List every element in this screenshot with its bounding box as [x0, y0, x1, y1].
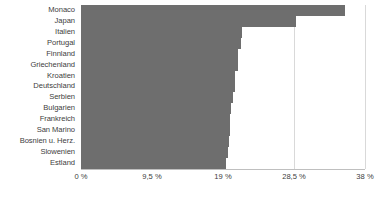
bar: [81, 158, 226, 169]
category-label: Frankreich: [0, 114, 78, 125]
bar: [81, 16, 296, 27]
category-label: Bosnien u. Herz.: [0, 136, 78, 147]
category-label: Japan: [0, 16, 78, 27]
bar-series: [81, 5, 365, 169]
x-axis-tick-label: 28,5 %: [282, 172, 306, 181]
bar-row: [81, 147, 365, 158]
bar: [81, 81, 235, 92]
category-label: Bulgarien: [0, 103, 78, 114]
bar-row: [81, 27, 365, 38]
x-axis-tick-labels: 0 %9,5 %19 %28,5 %38 %: [0, 172, 376, 188]
bar: [81, 49, 238, 60]
x-axis-tick-label: 19 %: [214, 172, 231, 181]
category-label: Kroatien: [0, 71, 78, 82]
bar-row: [81, 5, 365, 16]
gridline: [365, 5, 366, 169]
bar: [81, 103, 231, 114]
x-axis-line: [81, 169, 365, 170]
plot-area: [81, 5, 365, 169]
bar: [81, 5, 345, 16]
bar: [81, 147, 228, 158]
bar: [81, 71, 235, 82]
bar-row: [81, 92, 365, 103]
bar: [81, 136, 229, 147]
category-label: Griechenland: [0, 60, 78, 71]
bar: [81, 60, 238, 71]
category-label: Portugal: [0, 38, 78, 49]
bar-row: [81, 158, 365, 169]
bar-row: [81, 38, 365, 49]
category-label: Slowenien: [0, 147, 78, 158]
bar: [81, 27, 242, 38]
x-axis-tick-label: 0 %: [74, 172, 87, 181]
bar-row: [81, 103, 365, 114]
bar-row: [81, 136, 365, 147]
bar: [81, 125, 230, 136]
bar-row: [81, 125, 365, 136]
bar: [81, 38, 241, 49]
bar-row: [81, 81, 365, 92]
category-label: San Marino: [0, 125, 78, 136]
bar: [81, 92, 233, 103]
bar-row: [81, 16, 365, 27]
bar-row: [81, 49, 365, 60]
bar-row: [81, 114, 365, 125]
x-axis-tick-label: 9,5 %: [142, 172, 161, 181]
category-label: Serbien: [0, 92, 78, 103]
category-label: Estland: [0, 158, 78, 169]
category-label: Deutschland: [0, 81, 78, 92]
x-axis-tick-label: 38 %: [356, 172, 373, 181]
bar: [81, 114, 230, 125]
bar-chart: MonacoJapanItalienPortugalFinnlandGriech…: [0, 0, 376, 203]
bar-row: [81, 60, 365, 71]
category-axis-labels: MonacoJapanItalienPortugalFinnlandGriech…: [0, 5, 78, 169]
bar-row: [81, 71, 365, 82]
category-label: Italien: [0, 27, 78, 38]
category-label: Finnland: [0, 49, 78, 60]
category-label: Monaco: [0, 5, 78, 16]
